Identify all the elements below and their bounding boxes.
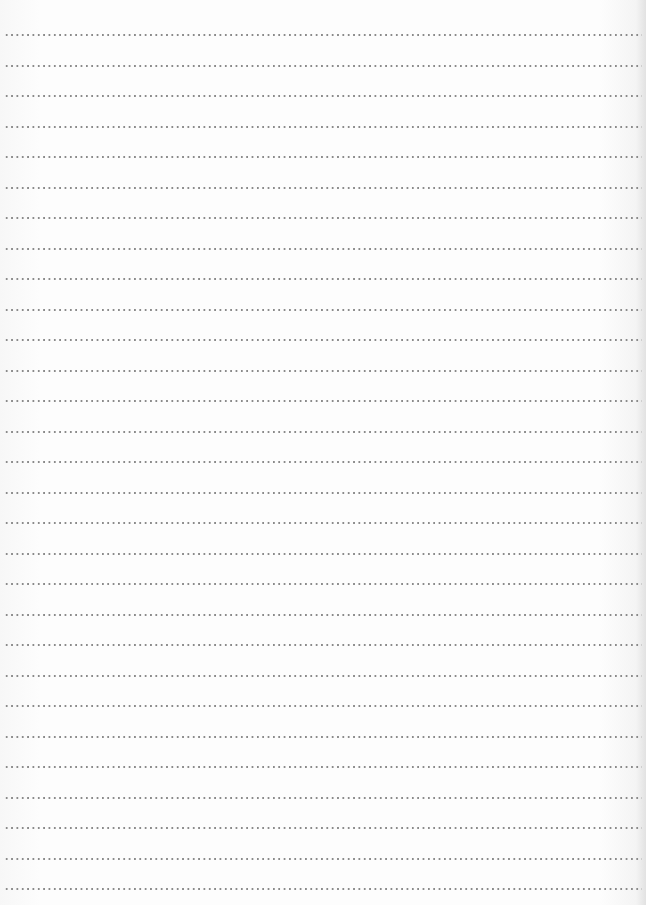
dotted-rule-line [4,705,642,707]
dotted-rule-line [4,217,642,219]
dotted-rule-line [4,65,642,67]
dotted-rule-line [4,156,642,158]
dotted-rule-line [4,248,642,250]
dotted-rule-line [4,278,642,280]
dotted-rule-line [4,95,642,97]
dotted-rule-line [4,309,642,311]
dotted-rule-line [4,644,642,646]
dotted-rule-line [4,34,642,36]
dotted-rule-line [4,553,642,555]
dotted-rule-line [4,461,642,463]
dotted-rule-line [4,400,642,402]
dotted-rule-line [4,522,642,524]
dotted-rule-line [4,187,642,189]
dotted-rule-line [4,797,642,799]
dotted-rule-line [4,614,642,616]
dotted-rule-line [4,126,642,128]
dotted-rule-line [4,766,642,768]
lined-paper-sheet [0,0,646,905]
dotted-rule-line [4,370,642,372]
dotted-rule-line [4,339,642,341]
dotted-rule-line [4,675,642,677]
dotted-rule-line [4,827,642,829]
dotted-rule-line [4,858,642,860]
dotted-rule-line [4,431,642,433]
dotted-rule-line [4,736,642,738]
dotted-rule-line [4,492,642,494]
dotted-rule-line [4,888,642,890]
dotted-rule-line [4,583,642,585]
